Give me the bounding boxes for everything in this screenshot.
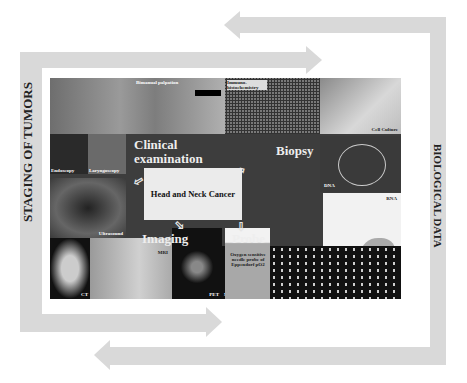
top-right-band xyxy=(240,17,446,33)
label-bimanual: Bimanual palpation xyxy=(136,80,178,85)
mri-photo: MRI xyxy=(90,238,172,299)
label-ultrasound: Ultrasound xyxy=(99,231,123,236)
cell-culture-photo: Cell Culture xyxy=(320,78,401,134)
category-biopsy: Biopsy xyxy=(276,144,314,158)
biological-label: BIOLOGICAL DATA xyxy=(432,144,444,244)
label-mri: MRI xyxy=(158,250,168,255)
label-oxygen-probe: Oxygen sensitive needle probe of Eppendo… xyxy=(227,252,269,267)
category-clinical: Clinical examination xyxy=(134,138,214,166)
censor-bar xyxy=(195,90,221,96)
ct-photo: CT xyxy=(50,238,90,299)
clinical-photo: Bimanual palpation xyxy=(50,78,225,134)
label-pet: PET xyxy=(209,292,219,297)
label-endoscopy: Endoscopy xyxy=(51,168,74,173)
label-laryngoscopy: Laryngoscopy xyxy=(89,168,119,173)
laryngoscopy-photo: Laryngoscopy xyxy=(88,134,126,174)
top-left-band xyxy=(20,52,306,68)
center-box: Head and Neck Cancer xyxy=(144,168,242,220)
label-ct: CT xyxy=(81,292,88,297)
bottom-band xyxy=(110,347,446,365)
arrow-right-bottom xyxy=(206,307,222,337)
cell-cycle-circle xyxy=(338,144,386,186)
endoscopy-photo: Endoscopy xyxy=(50,134,88,174)
dna-diagram: DNA xyxy=(320,136,401,192)
label-cell-culture: Cell Culture xyxy=(372,127,398,132)
arrow-left-bottom xyxy=(94,340,110,370)
center-title: Head and Neck Cancer xyxy=(151,189,235,199)
arrow-right-top xyxy=(306,46,322,74)
bottom-left-band xyxy=(20,314,206,332)
label-dna: DNA xyxy=(324,183,335,188)
ultrasound-photo: Ultrasound xyxy=(50,178,126,238)
staging-label: STAGING OF TUMORS xyxy=(20,82,36,222)
immuno-photo: Immuno-histochemistry xyxy=(225,78,320,134)
arrow-left-top xyxy=(224,11,240,39)
label-rna: RNA xyxy=(386,196,397,201)
arrow-to-probe: ⇩ xyxy=(236,220,246,235)
label-immuno: Immuno-histochemistry xyxy=(227,80,267,90)
